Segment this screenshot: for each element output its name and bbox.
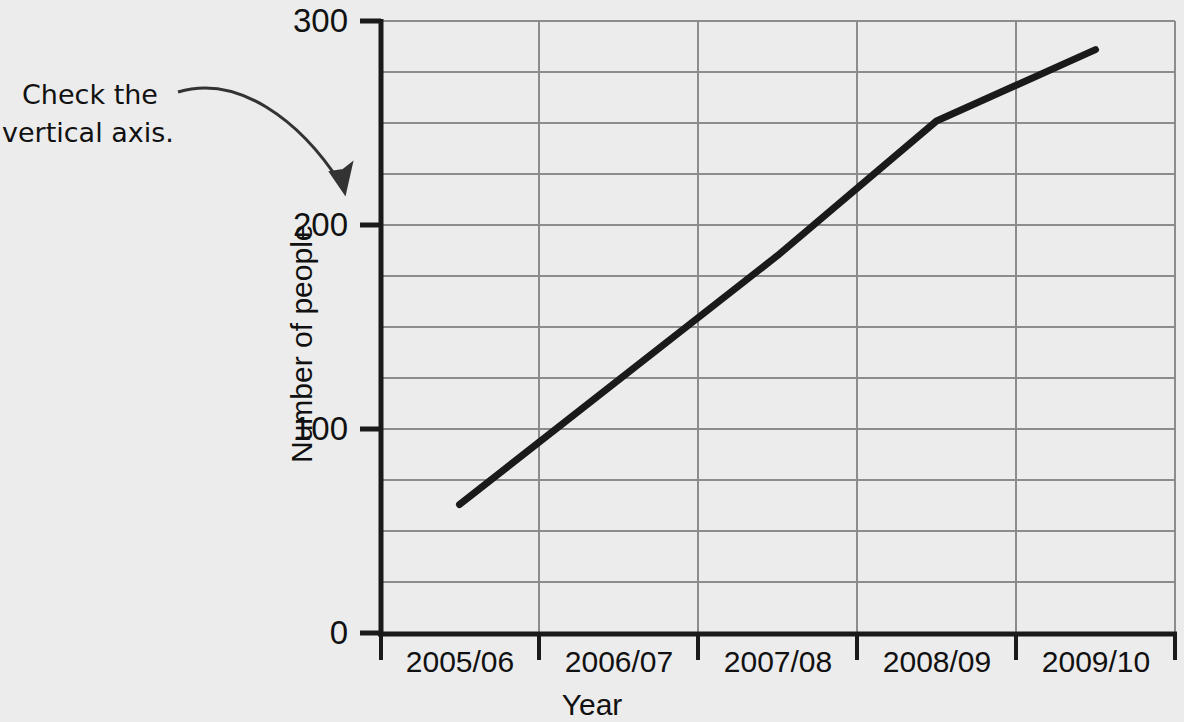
y-tick-label-300: 300 — [238, 2, 348, 40]
x-tick-label-2005-06: 2005/06 — [381, 645, 539, 679]
annotation-arrow-icon — [178, 88, 352, 194]
data-line-number-of-people — [460, 50, 1096, 505]
x-tick-label-2009-10: 2009/10 — [1017, 645, 1175, 679]
annotation-text-line-2: vertical axis. — [2, 114, 174, 152]
chart-canvas — [0, 0, 1184, 722]
y-axis-title: Number of people — [285, 225, 319, 463]
y-axis-ticks — [360, 21, 381, 633]
chart-figure: Check the vertical axis. 300 200 100 0 N… — [0, 0, 1184, 722]
y-tick-label-0: 0 — [238, 614, 348, 652]
x-tick-label-2007-08: 2007/08 — [699, 645, 857, 679]
annotation-text-line-1: Check the — [22, 76, 158, 114]
x-tick-label-2006-07: 2006/07 — [540, 645, 698, 679]
x-tick-label-2008-09: 2008/09 — [858, 645, 1016, 679]
horizontal-gridlines — [380, 72, 1175, 582]
x-axis-title: Year — [0, 688, 1184, 722]
